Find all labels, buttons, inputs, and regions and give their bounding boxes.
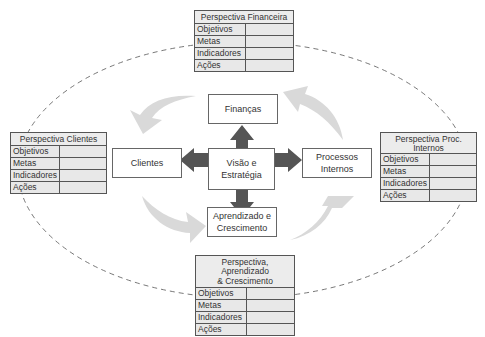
row-value	[60, 182, 106, 193]
table-title-line1: Perspectiva, Aprendizado	[198, 258, 292, 275]
table-row: Indicadores	[11, 170, 106, 182]
row-label: Objetivos	[381, 154, 430, 165]
node-visao-estrategia: Visão e Estratégia	[208, 148, 275, 190]
table-row: Indicadores	[195, 48, 293, 60]
arrow-left-icon	[180, 148, 208, 172]
table-row: Objetivos	[381, 154, 476, 166]
row-label: Metas	[381, 166, 430, 177]
table-row: Ações	[11, 182, 106, 193]
row-value	[247, 324, 294, 335]
row-label: Ações	[381, 190, 430, 201]
table-row: Ações	[196, 324, 294, 335]
row-label: Ações	[196, 324, 247, 335]
row-value	[430, 154, 476, 165]
curved-arrow-top-left-icon	[130, 96, 196, 134]
row-value	[60, 146, 106, 157]
row-value	[246, 60, 293, 71]
table-row: Metas	[196, 300, 294, 312]
node-aprendizado-crescimento: Aprendizado e Crescimento	[207, 207, 277, 237]
table-perspectiva-financeira: Perspectiva Financeira Objetivos Metas I…	[194, 10, 294, 72]
financas-label: Finanças	[225, 103, 262, 115]
row-value	[247, 300, 294, 311]
row-value	[247, 312, 294, 323]
bsc-diagram: Visão e Estratégia Finanças Clientes Pro…	[0, 0, 485, 337]
clientes-label: Clientes	[131, 157, 164, 169]
aprendizado-line1: Aprendizado e	[213, 210, 271, 222]
table-title: Perspectiva Financeira	[195, 11, 293, 24]
node-clientes: Clientes	[112, 148, 182, 178]
row-label: Indicadores	[381, 178, 430, 189]
table-perspectiva-aprendizado: Perspectiva, Aprendizado & Crescimento O…	[195, 255, 295, 336]
table-row: Indicadores	[196, 312, 294, 324]
center-line2: Estratégia	[221, 169, 262, 181]
row-label: Indicadores	[196, 312, 247, 323]
row-value	[430, 190, 476, 201]
curved-arrow-bottom-right-icon	[290, 196, 354, 240]
row-label: Metas	[196, 300, 247, 311]
row-value	[60, 170, 106, 181]
node-processos-internos: Processos Internos	[302, 148, 372, 178]
table-row: Objetivos	[11, 146, 106, 158]
row-label: Metas	[11, 158, 60, 169]
curved-arrow-top-right-icon	[283, 86, 343, 140]
arrow-right-icon	[275, 148, 302, 172]
table-title: Perspectiva Clientes	[11, 133, 106, 146]
table-perspectiva-clientes: Perspectiva Clientes Objetivos Metas Ind…	[10, 132, 107, 194]
row-value	[430, 178, 476, 189]
row-value	[246, 36, 293, 47]
row-value	[247, 288, 294, 299]
row-label: Ações	[11, 182, 60, 193]
table-row: Ações	[381, 190, 476, 201]
row-label: Objetivos	[196, 288, 247, 299]
row-label: Indicadores	[11, 170, 60, 181]
row-label: Metas	[195, 36, 246, 47]
curved-arrow-bottom-left-icon	[142, 196, 206, 243]
node-financas: Finanças	[208, 94, 278, 124]
table-title: Perspectiva Proc. Internos	[381, 133, 476, 154]
table-perspectiva-processos: Perspectiva Proc. Internos Objetivos Met…	[380, 132, 477, 202]
table-row: Metas	[195, 36, 293, 48]
table-row: Metas	[11, 158, 106, 170]
table-row: Objetivos	[195, 24, 293, 36]
row-value	[246, 48, 293, 59]
row-label: Objetivos	[195, 24, 246, 35]
row-label: Ações	[195, 60, 246, 71]
processos-line1: Processos	[316, 151, 358, 163]
aprendizado-line2: Crescimento	[213, 222, 271, 234]
row-value	[60, 158, 106, 169]
row-value	[430, 166, 476, 177]
table-row: Indicadores	[381, 178, 476, 190]
table-row: Metas	[381, 166, 476, 178]
center-line1: Visão e	[221, 157, 262, 169]
row-value	[246, 24, 293, 35]
row-label: Indicadores	[195, 48, 246, 59]
processos-line2: Internos	[316, 163, 358, 175]
row-label: Objetivos	[11, 146, 60, 157]
table-row: Objetivos	[196, 288, 294, 300]
table-title: Perspectiva, Aprendizado & Crescimento	[196, 256, 294, 288]
table-row: Ações	[195, 60, 293, 71]
table-title-line2: & Crescimento	[198, 277, 292, 286]
